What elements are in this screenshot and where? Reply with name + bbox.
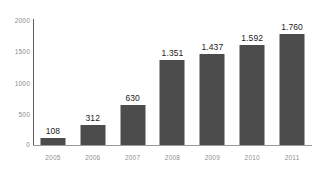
bar-value-label: 108 [46,127,60,136]
bar-series: 108 2005 312 2006 630 2007 1.351 2008 1.… [33,0,312,175]
bar-group: 108 2005 [33,0,73,175]
bar [160,60,185,145]
bar-group: 1.592 2010 [232,0,272,175]
bar [200,54,225,145]
x-axis-category-label: 2009 [205,155,220,162]
bar-value-label: 1.760 [281,23,303,32]
bar-value-label: 630 [125,94,139,103]
bar-group: 1.760 2011 [272,0,312,175]
y-axis-tick-label: 500 [2,112,30,119]
x-axis-category-label: 2008 [165,155,180,162]
bar-group: 1.437 2009 [192,0,232,175]
bar-value-label: 1.351 [162,49,184,58]
y-axis-tick-label: 1500 [2,49,30,56]
bar-group: 630 2007 [113,0,153,175]
x-axis-category-label: 2011 [285,155,300,162]
x-axis-category-label: 2010 [245,155,260,162]
y-axis-tick-label: 0 [2,142,30,149]
bar [280,34,305,145]
x-axis-category-label: 2005 [45,155,60,162]
bar-chart: 2000 1500 1000 500 0 108 2005 312 2006 6… [0,0,317,175]
bar-group: 1.351 2008 [153,0,193,175]
y-axis-tick-labels: 2000 1500 1000 500 0 [0,0,30,175]
bar-value-label: 1.592 [241,34,263,43]
bar [40,138,65,145]
x-axis-category-label: 2007 [125,155,140,162]
bar-group: 312 2006 [73,0,113,175]
bar-value-label: 312 [86,114,100,123]
bar [80,125,105,145]
bar [120,105,145,145]
x-axis-category-label: 2006 [85,155,100,162]
bar-value-label: 1.437 [201,43,223,52]
y-axis-tick-label: 2000 [2,18,30,25]
bar [240,45,265,145]
y-axis-tick-label: 1000 [2,81,30,88]
